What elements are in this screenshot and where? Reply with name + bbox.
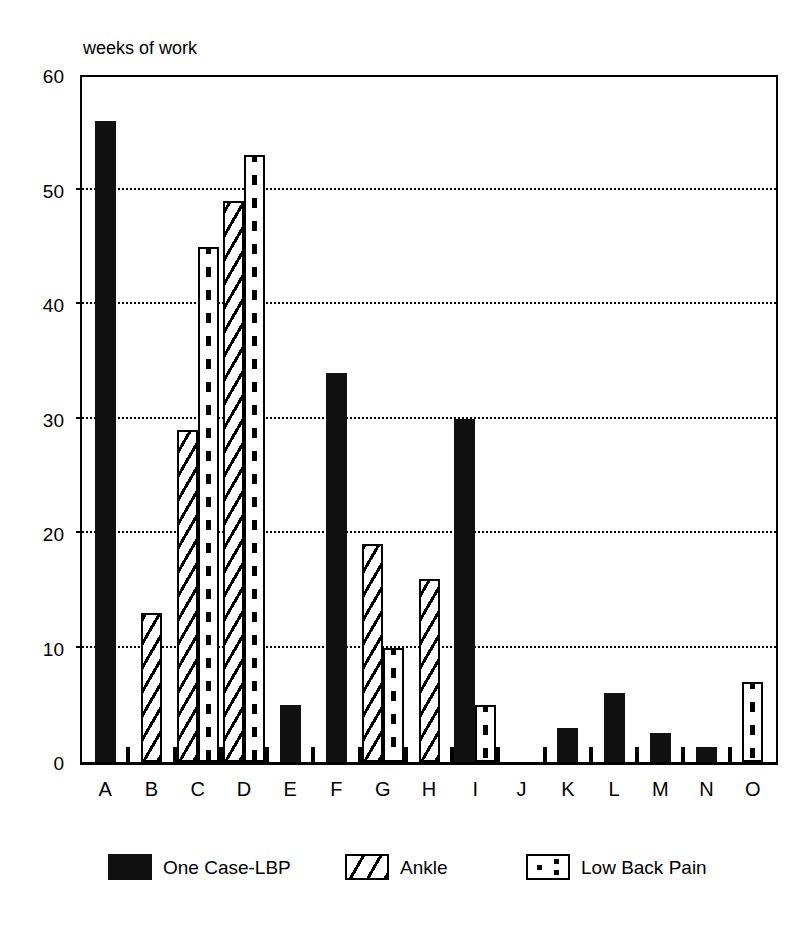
x-tick-M xyxy=(635,747,639,762)
x-tick-label-M: M xyxy=(640,778,680,800)
y-tick-label-60: 60 xyxy=(20,67,64,86)
bar-N-one-case-lbp xyxy=(696,747,717,762)
bar-H-ankle xyxy=(419,579,440,762)
legend-item-low-back-pain: Low Back Pain xyxy=(526,852,707,882)
bar-O-low-back-pain xyxy=(742,682,763,762)
legend-swatch-solid xyxy=(108,854,152,880)
y-tick-label-20: 20 xyxy=(20,525,64,544)
x-tick-label-J: J xyxy=(502,778,542,800)
legend-label: Low Back Pain xyxy=(581,857,707,878)
bar-B-ankle xyxy=(141,613,162,762)
x-tick-F xyxy=(311,747,315,762)
x-tick-label-H: H xyxy=(409,778,449,800)
bar-C-ankle xyxy=(177,430,198,762)
bar-A-one-case-lbp xyxy=(95,121,116,762)
y-tick-label-0: 0 xyxy=(20,754,64,773)
chart-legend: One Case-LBPAnkleLow Back Pain xyxy=(108,852,708,886)
plot-area xyxy=(80,75,778,765)
y-tick-40 xyxy=(76,302,84,304)
legend-swatch-hatch xyxy=(345,854,389,880)
y-axis-title: weeks of work xyxy=(83,38,197,58)
gridline-30 xyxy=(82,417,776,419)
x-tick-E xyxy=(265,747,269,762)
legend-item-one-case-lbp: One Case-LBP xyxy=(108,852,291,882)
x-tick-label-D: D xyxy=(224,778,264,800)
x-tick-label-L: L xyxy=(594,778,634,800)
bar-chart-figure: weeks of work 0102030405060 ABCDEFGHIJKL… xyxy=(0,0,808,933)
y-tick-label-30: 30 xyxy=(20,411,64,430)
y-tick-label-40: 40 xyxy=(20,296,64,315)
x-tick-B xyxy=(126,747,130,762)
x-tick-N xyxy=(681,747,685,762)
legend-swatch-dots xyxy=(526,854,570,880)
x-tick-label-O: O xyxy=(733,778,773,800)
y-tick-30 xyxy=(76,417,84,419)
bar-M-one-case-lbp xyxy=(650,733,671,762)
x-tick-K xyxy=(543,747,547,762)
bar-K-one-case-lbp xyxy=(557,728,578,762)
y-tick-50 xyxy=(76,188,84,190)
bar-G-low-back-pain xyxy=(383,648,404,763)
x-tick-label-I: I xyxy=(455,778,495,800)
bar-G-ankle xyxy=(362,544,383,762)
x-tick-label-N: N xyxy=(687,778,727,800)
legend-item-ankle: Ankle xyxy=(345,852,448,882)
x-tick-L xyxy=(589,747,593,762)
legend-label: Ankle xyxy=(400,857,448,878)
y-tick-10 xyxy=(76,646,84,648)
x-tick-label-E: E xyxy=(270,778,310,800)
bar-D-ankle xyxy=(223,201,244,762)
gridline-50 xyxy=(82,188,776,190)
x-tick-H xyxy=(404,747,408,762)
x-tick-label-F: F xyxy=(316,778,356,800)
x-tick-label-G: G xyxy=(363,778,403,800)
plot-inner xyxy=(82,77,776,762)
y-tick-label-10: 10 xyxy=(20,640,64,659)
bar-D-low-back-pain xyxy=(244,155,265,762)
x-tick-O xyxy=(728,747,732,762)
x-tick-J xyxy=(496,747,500,762)
x-tick-label-A: A xyxy=(85,778,125,800)
gridline-40 xyxy=(82,302,776,304)
bar-I-low-back-pain xyxy=(475,705,496,762)
y-tick-label-50: 50 xyxy=(20,182,64,201)
legend-label: One Case-LBP xyxy=(163,857,291,878)
bar-L-one-case-lbp xyxy=(604,693,625,762)
y-tick-20 xyxy=(76,531,84,533)
x-tick-label-C: C xyxy=(178,778,218,800)
bar-I-one-case-lbp xyxy=(454,419,475,763)
bar-C-low-back-pain xyxy=(198,247,219,762)
x-tick-label-K: K xyxy=(548,778,588,800)
bar-E-one-case-lbp xyxy=(280,705,301,762)
bar-F-one-case-lbp xyxy=(326,373,347,762)
x-tick-label-B: B xyxy=(131,778,171,800)
